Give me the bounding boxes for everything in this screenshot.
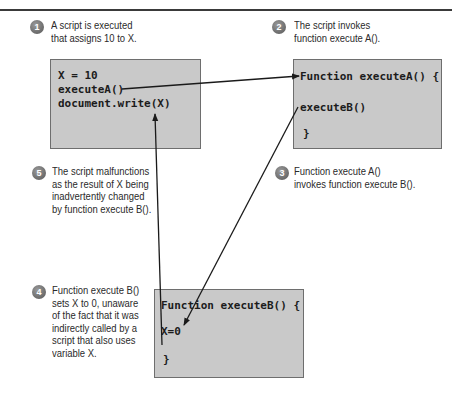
step-2-badge: 2 — [272, 20, 286, 34]
step-5-badge: 5 — [32, 166, 46, 180]
step-3-note: Function execute A() invokes function ex… — [294, 165, 415, 190]
step-2-note: The script invokes function execute A(). — [294, 19, 380, 44]
code-line-call-b: executeB() — [300, 101, 366, 114]
top-rule — [0, 9, 452, 11]
step-4-note: Function execute B() sets X to 0, unawar… — [52, 284, 139, 359]
function-a-code-box: Function executeA() { executeB() } — [293, 59, 442, 149]
code-line-close-a: } — [303, 127, 310, 140]
step-5-note: The script malfunctions as the result of… — [52, 165, 151, 215]
code-line-call-a: executeA() — [58, 83, 124, 96]
step-1-badge: 1 — [30, 20, 44, 34]
code-line-def-a: Function executeA() { — [300, 70, 439, 83]
step-1-note: A script is executed that assigns 10 to … — [51, 19, 137, 44]
code-line-def-b: Function executeB() { — [161, 299, 300, 312]
code-line-assign: X = 10 — [58, 69, 98, 82]
step-3-badge: 3 — [275, 166, 289, 180]
code-line-close-b: } — [163, 353, 170, 366]
script-code-box: X = 10 executeA() document.write(X) — [50, 59, 201, 149]
function-b-code-box: Function executeB() { X=0 } — [154, 289, 304, 378]
code-line-write: document.write(X) — [58, 97, 171, 110]
code-line-assign-zero: X=0 — [161, 325, 181, 338]
step-4-badge: 4 — [32, 285, 46, 299]
